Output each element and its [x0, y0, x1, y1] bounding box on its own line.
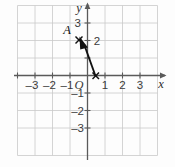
- coordinate-plane-figure: –3 –2 –1 1 2 3 3 2 –1 –2 –3 O x y A: [0, 0, 175, 167]
- y-tick-label-neg2: –2: [71, 105, 84, 117]
- y-axis-label: y: [74, 1, 82, 15]
- point-label-a: A: [62, 23, 71, 37]
- x-tick-label-3: 3: [137, 79, 143, 91]
- y-tick-label-3: 3: [75, 17, 81, 29]
- y-tick-label-neg3: –3: [71, 122, 84, 134]
- x-tick-label-neg3: –3: [26, 79, 39, 91]
- x-axis-label: x: [157, 77, 164, 91]
- x-tick-label-neg2: –2: [43, 79, 56, 91]
- origin-label: O: [74, 78, 83, 92]
- x-tick-label-1: 1: [102, 79, 108, 91]
- y-tick-label-2: 2: [94, 35, 100, 47]
- coordinate-grid-svg: –3 –2 –1 1 2 3 3 2 –1 –2 –3 O x y A: [0, 0, 175, 167]
- x-tick-label-2: 2: [119, 79, 125, 91]
- vector-shaft: [84, 44, 96, 76]
